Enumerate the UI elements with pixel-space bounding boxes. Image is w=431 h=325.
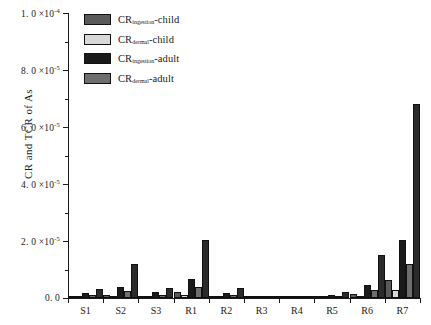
x-tick-0: [68, 298, 69, 303]
y-tick-label-3: 6. 0 ×10-5: [21, 121, 60, 133]
x-tick-label-S3: S3: [151, 305, 162, 316]
bar-R4-1[interactable]: [286, 296, 293, 298]
bar-R6-1[interactable]: [357, 296, 364, 298]
x-tick-6: [279, 298, 280, 303]
bar-R2-2[interactable]: [223, 293, 230, 298]
x-tick-9: [385, 298, 386, 303]
x-tick-label-S1: S1: [80, 305, 91, 316]
bar-R4-3[interactable]: [300, 296, 307, 298]
legend-label-1: CRdermal-child: [118, 34, 174, 45]
bar-R2-0[interactable]: [209, 296, 216, 298]
bar-R3-3[interactable]: [265, 296, 272, 298]
legend-swatch-0: [84, 14, 111, 25]
bar-R3-1[interactable]: [251, 296, 258, 298]
bar-R1-0[interactable]: [174, 292, 181, 298]
bar-S1-1[interactable]: [75, 296, 82, 298]
bar-S2-4[interactable]: [131, 264, 138, 298]
bar-R4-0[interactable]: [279, 296, 286, 298]
legend-item-CR_dermal-adult[interactable]: CRdermal-adult: [84, 71, 179, 87]
bar-R2-3[interactable]: [230, 295, 237, 298]
x-tick-label-R4: R4: [291, 305, 303, 316]
bar-R5-1[interactable]: [321, 296, 328, 298]
bar-S3-0[interactable]: [138, 296, 145, 298]
bar-R5-0[interactable]: [314, 296, 321, 298]
x-tick-label-R6: R6: [361, 305, 373, 316]
y-tick-label-1: 2. 0 ×10-5: [21, 235, 60, 247]
bar-group-R3: [244, 13, 279, 298]
x-tick-1: [103, 298, 104, 303]
legend-item-CR_dermal-child[interactable]: CRdermal-child: [84, 32, 179, 48]
bar-R1-1[interactable]: [181, 295, 188, 298]
bar-R7-3[interactable]: [406, 264, 413, 298]
bar-S2-3[interactable]: [124, 291, 131, 298]
bar-S1-4[interactable]: [96, 289, 103, 298]
bar-S3-1[interactable]: [145, 296, 152, 298]
x-tick-label-R2: R2: [221, 305, 233, 316]
bar-S2-2[interactable]: [117, 287, 124, 298]
bar-S2-0[interactable]: [103, 295, 110, 298]
legend-swatch-3: [84, 73, 111, 84]
legend-item-CR_ingestion-adult[interactable]: CRingestion-adult: [84, 51, 179, 67]
y-tick-label-0: 0. 0: [45, 293, 60, 303]
legend-label-3: CRdermal-adult: [118, 73, 174, 84]
x-tick-8: [350, 298, 351, 303]
bar-S3-2[interactable]: [152, 292, 159, 298]
bar-R5-4[interactable]: [342, 292, 349, 298]
y-tick-label-2: 4. 0 ×10-5: [21, 178, 60, 190]
bar-R2-1[interactable]: [216, 296, 223, 298]
bar-R7-0[interactable]: [385, 280, 392, 298]
bar-S1-0[interactable]: [68, 296, 75, 298]
bar-R6-0[interactable]: [350, 294, 357, 298]
bar-R6-3[interactable]: [371, 290, 378, 298]
bar-S1-2[interactable]: [82, 293, 89, 298]
bar-R3-4[interactable]: [272, 296, 279, 298]
bar-R5-3[interactable]: [335, 296, 342, 298]
legend-item-CR_ingestion-child[interactable]: CRingestion-child: [84, 12, 179, 28]
legend-label-0: CRingestion-child: [118, 14, 179, 25]
bar-group-R7: [385, 13, 420, 298]
bar-R7-2[interactable]: [399, 240, 406, 298]
x-tick-end: [420, 298, 421, 303]
bar-group-R5: [314, 13, 349, 298]
chart-legend: CRingestion-childCRdermal-childCRingesti…: [84, 12, 179, 90]
y-tick-label-4: 8. 0 ×10-5: [21, 64, 60, 76]
bar-R7-4[interactable]: [413, 104, 420, 298]
bar-R2-4[interactable]: [237, 288, 244, 298]
bar-S2-1[interactable]: [110, 296, 117, 298]
x-tick-2: [138, 298, 139, 303]
bar-group-R2: [209, 13, 244, 298]
bar-S3-3[interactable]: [159, 295, 166, 298]
chart-root: CR and TCR of As 0. 02. 0 ×10-54. 0 ×10-…: [0, 0, 431, 325]
x-tick-7: [314, 298, 315, 303]
x-tick-label-R1: R1: [185, 305, 197, 316]
bar-R1-2[interactable]: [188, 279, 195, 298]
x-tick-5: [244, 298, 245, 303]
x-tick-4: [209, 298, 210, 303]
bar-R1-3[interactable]: [195, 287, 202, 298]
x-tick-3: [174, 298, 175, 303]
bar-R4-2[interactable]: [293, 296, 300, 298]
x-tick-label-R5: R5: [326, 305, 338, 316]
x-tick-label-R3: R3: [256, 305, 268, 316]
legend-swatch-2: [84, 53, 111, 64]
bar-R5-2[interactable]: [328, 295, 335, 298]
legend-swatch-1: [84, 34, 111, 45]
bar-group-R6: [350, 13, 385, 298]
bar-R3-0[interactable]: [244, 296, 251, 298]
bar-R7-1[interactable]: [392, 290, 399, 298]
bar-R6-4[interactable]: [378, 255, 385, 298]
legend-label-2: CRingestion-adult: [118, 53, 179, 64]
bar-R1-4[interactable]: [202, 240, 209, 298]
bar-R6-2[interactable]: [364, 285, 371, 298]
x-tick-label-S2: S2: [116, 305, 127, 316]
bar-group-R4: [279, 13, 314, 298]
bar-S3-4[interactable]: [166, 288, 173, 298]
bar-R3-2[interactable]: [258, 296, 265, 298]
x-tick-label-R7: R7: [397, 305, 409, 316]
bar-S1-3[interactable]: [89, 295, 96, 298]
y-tick-label-5: 1. 0 ×10-4: [21, 7, 60, 19]
bar-R4-4[interactable]: [307, 296, 314, 298]
